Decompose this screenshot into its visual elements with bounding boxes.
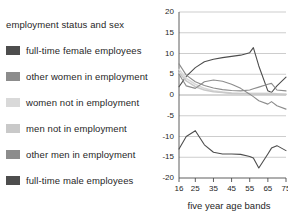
x-axis-tick-label: 65 bbox=[260, 184, 276, 193]
legend-item-label: other men in employment bbox=[26, 149, 136, 160]
y-axis-tick-label: -5 bbox=[156, 111, 174, 120]
legend-item-label: full-time male employees bbox=[26, 175, 133, 186]
x-axis-tick-label: 35 bbox=[205, 184, 221, 193]
y-axis-tick-label: -10 bbox=[156, 132, 174, 141]
y-axis-tick-label: 10 bbox=[156, 49, 174, 58]
y-axis-tick-label: 5 bbox=[156, 69, 174, 78]
y-axis-tick-label: 15 bbox=[156, 28, 174, 37]
legend-swatch-icon bbox=[6, 46, 20, 55]
legend-item: full-time female employees bbox=[6, 44, 142, 56]
legend-item-label: other women in employment bbox=[26, 71, 148, 82]
x-axis-tick-label: 55 bbox=[242, 184, 258, 193]
chart-figure: employment status and sex full-time fema… bbox=[0, 0, 288, 220]
legend-swatch-icon bbox=[6, 176, 20, 185]
y-axis-tick-label: -15 bbox=[156, 152, 174, 161]
legend-swatch-icon bbox=[6, 150, 20, 159]
plot-panel: -20-15-10-505101520 16253545556575 five … bbox=[156, 0, 288, 220]
x-axis-tick-label: 16 bbox=[171, 184, 187, 193]
legend-item: men not in employment bbox=[6, 122, 127, 134]
legend-item-label: full-time female employees bbox=[26, 45, 142, 56]
x-axis-tick-label: 25 bbox=[187, 184, 203, 193]
x-axis-title: five year age bands bbox=[170, 200, 288, 211]
legend-swatch-icon bbox=[6, 124, 20, 133]
legend-item: full-time male employees bbox=[6, 174, 133, 186]
y-axis-tick-label: 0 bbox=[156, 90, 174, 99]
x-axis-tick-label: 45 bbox=[224, 184, 240, 193]
legend-item: other women in employment bbox=[6, 70, 148, 82]
legend-item: other men in employment bbox=[6, 148, 136, 160]
legend-item: women not in employment bbox=[6, 96, 139, 108]
legend-item-label: men not in employment bbox=[26, 123, 127, 134]
legend-panel: employment status and sex full-time fema… bbox=[0, 0, 160, 220]
x-axis-tick-label: 75 bbox=[278, 184, 288, 193]
legend-title: employment status and sex bbox=[6, 19, 124, 30]
legend-item-label: women not in employment bbox=[26, 97, 139, 108]
y-axis-tick-label: -20 bbox=[156, 173, 174, 182]
legend-swatch-icon bbox=[6, 98, 20, 107]
y-axis-tick-label: 20 bbox=[156, 7, 174, 16]
legend-swatch-icon bbox=[6, 72, 20, 81]
